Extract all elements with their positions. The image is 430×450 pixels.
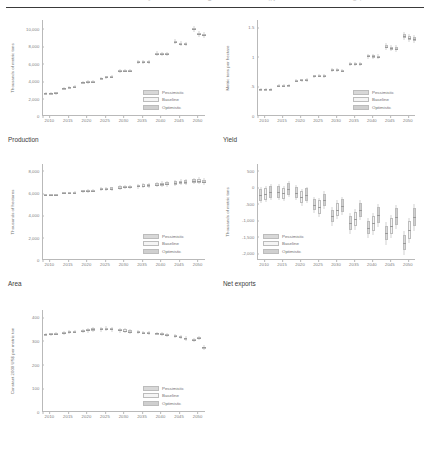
box-price-optimistic-7 <box>184 310 188 412</box>
x-tick-production-2015: 2015 <box>63 116 73 123</box>
median-line <box>68 87 72 88</box>
legend-label-optimistic: Optimistic <box>162 249 181 254</box>
legend-item-optimistic[interactable]: Optimistic <box>143 104 184 110</box>
legend-swatch-pessimistic-icon <box>353 90 369 95</box>
median-line <box>160 54 164 55</box>
median-line <box>313 76 316 77</box>
legend-item-pessimistic[interactable]: Pessimistic <box>353 89 394 95</box>
y-tick-net_exports--1500: -1,500 <box>242 234 257 239</box>
legend-production: PessimisticBaselineOptimistic <box>143 89 184 112</box>
legend-item-baseline[interactable]: Baseline <box>143 393 184 399</box>
x-tick-net_exports-2010: 2010 <box>259 260 269 267</box>
median-line <box>318 76 321 77</box>
x-tick-yield-2020: 2020 <box>295 116 305 123</box>
x-tick-price-2040: 2040 <box>156 412 166 419</box>
median-line <box>73 87 77 88</box>
median-line <box>142 62 146 63</box>
legend-yield: PessimisticBaselineOptimistic <box>353 89 394 112</box>
median-line <box>73 193 77 194</box>
legend-swatch-pessimistic-icon <box>263 234 279 239</box>
box-yield-optimistic-0 <box>269 20 272 116</box>
x-tick-net_exports-2025: 2025 <box>313 260 323 267</box>
x-tick-price-2015: 2015 <box>63 412 73 419</box>
y-tick-price-400: 400 <box>32 315 42 320</box>
median-line <box>197 181 201 182</box>
box-production-optimistic-3 <box>110 20 114 116</box>
box-yield-baseline-8 <box>408 20 411 116</box>
box-net_exports-baseline-8 <box>408 164 411 260</box>
median-line <box>331 216 334 217</box>
median-line <box>160 334 164 335</box>
median-line <box>86 191 90 192</box>
legend-item-baseline[interactable]: Baseline <box>353 97 394 103</box>
median-line <box>73 332 77 333</box>
box-net_exports-baseline-3 <box>318 164 321 260</box>
median-line <box>62 193 66 194</box>
box-net_exports-pessimistic-8 <box>403 164 406 260</box>
x-tick-area-2045: 2045 <box>174 260 184 267</box>
median-line <box>295 193 298 194</box>
x-tick-net_exports-2045: 2045 <box>385 260 395 267</box>
panel-net-exports: -2,000-1,500-1,000-500050020102015202020… <box>223 158 423 276</box>
box-area-pessimistic-0 <box>44 164 48 260</box>
legend-item-pessimistic[interactable]: Pessimistic <box>143 233 184 239</box>
legend-item-optimistic[interactable]: Optimistic <box>143 248 184 254</box>
median-line <box>86 330 90 331</box>
median-line <box>336 210 339 211</box>
legend-item-pessimistic[interactable]: Pessimistic <box>263 233 304 239</box>
median-line <box>264 194 267 195</box>
median-line <box>341 206 344 207</box>
legend-item-baseline[interactable]: Baseline <box>263 241 304 247</box>
median-line <box>49 93 53 94</box>
x-tick-yield-2050: 2050 <box>403 116 413 123</box>
box-area-baseline-2 <box>86 164 90 260</box>
x-tick-price-2045: 2045 <box>174 412 184 419</box>
median-line <box>395 217 398 218</box>
box-price-baseline-8 <box>197 310 201 412</box>
legend-item-optimistic[interactable]: Optimistic <box>143 400 184 406</box>
box-net_exports-optimistic-8 <box>413 164 416 260</box>
median-line <box>300 80 303 81</box>
box-net_exports-pessimistic-4 <box>331 164 334 260</box>
legend-item-pessimistic[interactable]: Pessimistic <box>143 385 184 391</box>
x-tick-yield-2030: 2030 <box>331 116 341 123</box>
x-tick-production-2040: 2040 <box>156 116 166 123</box>
median-line <box>295 81 298 82</box>
box-yield-optimistic-3 <box>323 20 326 116</box>
median-line <box>287 189 290 190</box>
median-line <box>44 93 48 94</box>
median-line <box>349 223 352 224</box>
median-line <box>192 29 196 30</box>
box-area-pessimistic-5 <box>137 164 141 260</box>
median-line <box>318 207 321 208</box>
median-line <box>259 195 262 196</box>
y-tick-yield-1.5: 1.5 <box>248 25 257 30</box>
box-yield-baseline-2 <box>300 20 303 116</box>
median-line <box>91 329 95 330</box>
median-line <box>349 64 352 65</box>
median-line <box>184 182 188 183</box>
x-tick-net_exports-2040: 2040 <box>367 260 377 267</box>
box-price-pessimistic-1 <box>62 310 66 412</box>
median-line <box>81 82 85 83</box>
x-tick-net_exports-2050: 2050 <box>403 260 413 267</box>
legend-item-baseline[interactable]: Baseline <box>143 97 184 103</box>
box-price-pessimistic-3 <box>100 310 104 412</box>
median-line <box>68 193 72 194</box>
x-tick-net_exports-2035: 2035 <box>349 260 359 267</box>
median-line <box>62 333 66 334</box>
legend-item-baseline[interactable]: Baseline <box>143 241 184 247</box>
box-area-pessimistic-1 <box>62 164 66 260</box>
x-tick-area-2050: 2050 <box>193 260 203 267</box>
median-line <box>331 70 334 71</box>
legend-swatch-optimistic-icon <box>143 401 159 406</box>
legend-item-optimistic[interactable]: Optimistic <box>263 248 304 254</box>
legend-item-optimistic[interactable]: Optimistic <box>353 104 394 110</box>
median-line <box>62 88 66 89</box>
median-line <box>100 189 104 190</box>
median-line <box>142 333 146 334</box>
legend-item-pessimistic[interactable]: Pessimistic <box>143 89 184 95</box>
median-line <box>54 93 58 94</box>
y-axis-line-yield <box>257 20 258 116</box>
median-line <box>137 62 141 63</box>
